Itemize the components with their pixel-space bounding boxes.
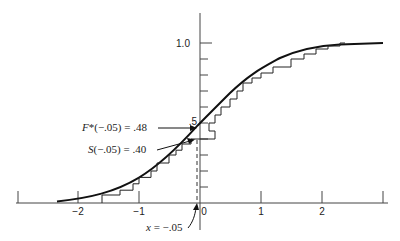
x-label-1: 1: [258, 206, 264, 217]
annotation-x-arrow: [188, 208, 196, 228]
annotation-s-arrow: [157, 141, 190, 150]
annotation-x-marker: x = −.05: [145, 221, 183, 233]
cdf-chart: 1.0 .5 −2 −1 0 1 2 F*(−.05) = .48 S(−.05…: [0, 0, 400, 241]
annotation-f-star: F*(−.05) = .48: [81, 121, 147, 134]
annotation-s: S(−.05) = .40: [88, 143, 147, 156]
x-label-0: 0: [201, 206, 207, 217]
x-label-2: 2: [319, 206, 325, 217]
x-label-m1: −1: [133, 206, 145, 217]
y-ticks: [200, 43, 212, 187]
arrowhead-x: [193, 203, 199, 210]
y-label-1: 1.0: [176, 38, 190, 49]
x-label-m2: −2: [72, 206, 84, 217]
